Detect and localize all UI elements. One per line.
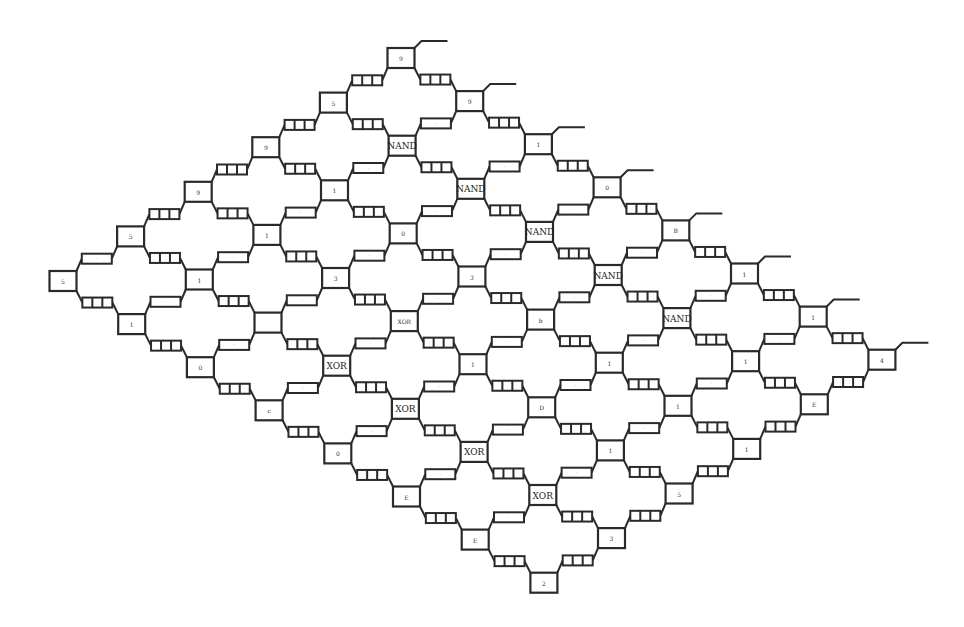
- svg-text:·: ·: [779, 336, 780, 341]
- processing-cell-1-2: 1: [321, 180, 348, 200]
- svg-text:5: 5: [61, 278, 65, 285]
- processing-cell-2-0: 1: [525, 127, 585, 154]
- connector-dr-3-3: [424, 338, 454, 348]
- processing-cell-5-5: E: [393, 487, 420, 507]
- connector-dr-5-3: [561, 424, 591, 434]
- connector-dr-0-3: [218, 208, 248, 218]
- connector-dl-4-4: ·: [357, 426, 387, 436]
- svg-text:3: 3: [610, 535, 614, 542]
- connector-dr-2-2: [423, 250, 453, 260]
- connector-dr-6-5: [495, 556, 525, 566]
- connector-dr-5-2: [629, 379, 659, 389]
- svg-text:·: ·: [507, 427, 508, 432]
- svg-text:1: 1: [333, 187, 337, 194]
- connector-dr-2-0: [558, 161, 588, 171]
- processing-cell-7-5: 2: [530, 573, 557, 593]
- svg-text:1: 1: [130, 321, 134, 328]
- processing-cell-3-3: XOR: [391, 311, 418, 331]
- svg-text:·: ·: [370, 341, 371, 346]
- xor-gate-4-4: XOR: [392, 399, 419, 419]
- svg-text:1: 1: [536, 141, 540, 148]
- connector-dr-0-1: [353, 119, 383, 129]
- connector-dl-1-1: ·: [353, 163, 383, 173]
- svg-text:·: ·: [232, 255, 233, 260]
- output-line: [689, 213, 722, 220]
- svg-text:·: ·: [710, 293, 711, 298]
- connector-dl-2-1: ·: [422, 206, 452, 216]
- processing-cell-1-0: 9: [456, 84, 516, 111]
- connector-dl-7-0: [833, 377, 863, 387]
- processing-cell-2-5: 0: [187, 357, 214, 377]
- connector-dl-4-1: ·: [559, 292, 589, 302]
- connector-dr-1-2: [354, 207, 384, 217]
- connector-dl-4-3: ·: [424, 382, 454, 392]
- connector-dl-5-2: ·: [561, 380, 591, 390]
- connector-dr-6-1: [765, 378, 795, 388]
- svg-text:0: 0: [336, 450, 340, 457]
- svg-text:1: 1: [471, 361, 475, 368]
- svg-text:5: 5: [129, 233, 133, 240]
- processing-cell-2-3: 3: [322, 268, 349, 288]
- processing-cell-6-2: 1: [665, 396, 692, 416]
- connector-dl-7-3: [630, 511, 660, 521]
- connector-dr-1-5: [151, 341, 181, 351]
- svg-text:·: ·: [575, 383, 576, 388]
- connector-dr-1-1: [421, 162, 451, 172]
- connector-dr-3-5: [288, 427, 318, 437]
- svg-text:1: 1: [265, 232, 269, 239]
- connector-dr-3-0: [626, 204, 656, 214]
- svg-text:·: ·: [165, 299, 166, 304]
- connector-dr-4-4: [425, 425, 455, 435]
- svg-text:·: ·: [504, 164, 505, 169]
- svg-text:B: B: [674, 227, 679, 234]
- nand-gate-4-1: NAND: [593, 265, 622, 285]
- svg-text:5: 5: [331, 100, 335, 107]
- svg-text:·: ·: [508, 515, 509, 520]
- connector-dl-2-0: ·: [490, 162, 520, 172]
- svg-text:·: ·: [437, 296, 438, 301]
- connector-dr-6-2: [697, 422, 727, 432]
- processing-cell-4-3: 1: [460, 354, 487, 374]
- processing-cell-1-3: 1: [253, 225, 280, 245]
- svg-text:1: 1: [608, 447, 612, 454]
- processing-cell-5-0: 1: [731, 257, 791, 284]
- connector-dr-0-0: [420, 75, 450, 85]
- svg-text:5: 5: [677, 491, 681, 498]
- svg-text:1: 1: [744, 358, 748, 365]
- connector-dr-3-4: [356, 382, 386, 392]
- connector-dr-0-2: [285, 164, 315, 174]
- svg-text:·: ·: [233, 342, 234, 347]
- connector-dr-4-0: [695, 247, 725, 257]
- output-line: [483, 84, 516, 91]
- processing-cell-3-0: 0: [594, 170, 654, 197]
- processing-cell-7-3: 5: [666, 484, 693, 504]
- connector-dl-3-3: ·: [356, 338, 386, 348]
- connector-dl-5-0: ·: [696, 291, 726, 301]
- processing-cell-0-2: 9: [252, 137, 279, 157]
- processing-cell-0-0: 9: [388, 41, 448, 68]
- connector-dl-4-2: ·: [492, 337, 522, 347]
- processing-cell-0-1: 5: [320, 93, 347, 113]
- connector-dr-6-4: [562, 512, 592, 522]
- connector-dl-3-4: ·: [288, 383, 318, 393]
- svg-text:·: ·: [436, 209, 437, 214]
- connector-dl-1-3: ·: [218, 252, 248, 262]
- processing-cell-6-3: 1: [597, 440, 624, 460]
- connector-dl-2-2: ·: [354, 251, 384, 261]
- processing-cell-2-4: [255, 313, 282, 333]
- svg-text:E: E: [404, 494, 408, 501]
- connector-dl-0-1: [285, 120, 315, 130]
- processing-cell-3-2: 3: [458, 267, 485, 287]
- connector-dr-1-4: [219, 296, 249, 306]
- svg-text:·: ·: [302, 386, 303, 391]
- connector-dl-5-3: ·: [493, 425, 523, 435]
- processing-cell-0-3: 9: [185, 182, 212, 202]
- processing-cell-1-4: 1: [186, 270, 213, 290]
- svg-text:NAND: NAND: [662, 314, 691, 324]
- connector-dl-3-2: ·: [423, 294, 453, 304]
- xor-gate-6-4: XOR: [529, 485, 556, 505]
- svg-text:E: E: [473, 537, 477, 544]
- svg-text:3: 3: [470, 274, 474, 281]
- xor-gate-5-4: XOR: [461, 442, 488, 462]
- nand-gate-2-1: NAND: [456, 179, 485, 199]
